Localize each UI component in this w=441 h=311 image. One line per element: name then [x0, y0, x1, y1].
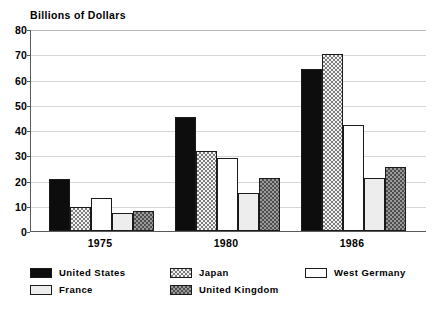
- y-axis: 01020304050607080: [0, 30, 27, 232]
- bar-westgermany-1980: [217, 158, 238, 231]
- legend-swatch-us: [30, 268, 52, 278]
- y-axis-tick-label: 80: [3, 24, 27, 36]
- bar-japan-1986: [322, 54, 343, 231]
- bar-france-1975: [112, 213, 133, 231]
- page-title: Billions of Dollars: [30, 9, 126, 21]
- legend-swatch-france: [30, 285, 52, 295]
- legend-label: West Germany: [334, 267, 406, 278]
- legend-item-japan[interactable]: Japan: [170, 267, 229, 278]
- legend-item-france[interactable]: France: [30, 284, 93, 295]
- legend-swatch-uk: [170, 285, 192, 295]
- y-axis-tick-label: 30: [3, 150, 27, 162]
- bar-japan-1975: [70, 207, 91, 231]
- y-axis-tick-label: 20: [3, 176, 27, 188]
- x-axis-tick-label: 1975: [88, 237, 113, 249]
- y-axis-tick-label: 40: [3, 125, 27, 137]
- legend-item-uk[interactable]: United Kingdom: [170, 284, 279, 295]
- bar-group-1986: [301, 30, 406, 231]
- legend-swatch-westgermany: [305, 268, 327, 278]
- y-axis-tick-label: 70: [3, 49, 27, 61]
- y-axis-tick-label: 60: [3, 75, 27, 87]
- bar-us-1975: [49, 179, 70, 231]
- bar-uk-1986: [385, 167, 406, 231]
- bar-westgermany-1975: [91, 198, 112, 231]
- bar-japan-1980: [196, 151, 217, 231]
- bar-westgermany-1986: [343, 125, 364, 231]
- legend-swatch-japan: [170, 268, 192, 278]
- bar-france-1980: [238, 193, 259, 231]
- bar-group-1975: [49, 30, 154, 231]
- legend-label: United Kingdom: [199, 284, 279, 295]
- y-axis-tick-mark: [27, 232, 30, 233]
- bar-uk-1980: [259, 178, 280, 231]
- bar-france-1986: [364, 178, 385, 231]
- bar-us-1986: [301, 69, 322, 231]
- chart-legend: United StatesJapanWest Germany FranceUni…: [30, 267, 430, 301]
- bar-us-1980: [175, 117, 196, 231]
- y-axis-tick-label: 10: [3, 201, 27, 213]
- plot-area: [30, 30, 426, 232]
- bar-uk-1975: [133, 211, 154, 231]
- bar-chart-figure: Billions of Dollars 01020304050607080 Un…: [0, 0, 441, 311]
- x-axis-tick-label: 1980: [214, 237, 239, 249]
- legend-row: FranceUnited Kingdom: [30, 284, 430, 301]
- legend-item-us[interactable]: United States: [30, 267, 126, 278]
- legend-item-westgermany[interactable]: West Germany: [305, 267, 406, 278]
- y-axis-tick-label: 50: [3, 100, 27, 112]
- legend-label: Japan: [199, 267, 229, 278]
- x-axis-tick-label: 1986: [340, 237, 365, 249]
- y-axis-tick-label: 0: [3, 226, 27, 238]
- legend-row: United StatesJapanWest Germany: [30, 267, 430, 284]
- bar-group-1980: [175, 30, 280, 231]
- legend-label: United States: [59, 267, 126, 278]
- legend-label: France: [59, 284, 93, 295]
